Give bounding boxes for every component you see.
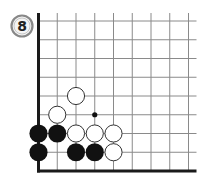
white-stone-icon: [105, 144, 122, 161]
black-stone-icon: [29, 143, 47, 161]
problem-badge: 8: [12, 16, 33, 37]
black-stone-icon: [86, 143, 104, 161]
black-stone-icon: [48, 124, 66, 142]
white-stone-icon: [105, 125, 122, 142]
problem-number: 8: [17, 18, 27, 34]
white-stone-icon: [67, 87, 84, 104]
white-stone-icon: [67, 125, 84, 142]
white-stone-icon: [49, 106, 66, 123]
go-diagram: 8: [0, 0, 202, 181]
black-stone-icon: [67, 143, 85, 161]
black-stone-icon: [29, 124, 47, 142]
white-stone-icon: [86, 125, 103, 142]
hoshi-points: [92, 112, 97, 117]
hoshi-dot-icon: [92, 112, 97, 117]
